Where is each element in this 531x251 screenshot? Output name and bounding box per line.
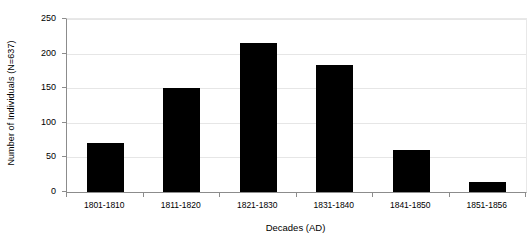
y-tick-label: 50 bbox=[46, 152, 56, 161]
bar-series bbox=[67, 19, 526, 192]
bar-slot bbox=[373, 19, 450, 192]
bar bbox=[240, 43, 277, 192]
bar bbox=[393, 150, 430, 192]
bar-slot bbox=[67, 19, 144, 192]
x-axis-title: Decades (AD) bbox=[66, 222, 525, 233]
y-tick-label: 250 bbox=[41, 14, 56, 23]
x-tick-label: 1811-1820 bbox=[143, 199, 220, 215]
x-tick-label: 1841-1850 bbox=[372, 199, 449, 215]
bar bbox=[163, 88, 200, 192]
x-axis-tick-labels: 1801-1810 1811-1820 1821-1830 1831-1840 … bbox=[66, 199, 525, 215]
x-tick-mark bbox=[525, 192, 526, 197]
bar-slot bbox=[144, 19, 221, 192]
bar-slot bbox=[450, 19, 527, 192]
y-tick-label: 0 bbox=[51, 187, 56, 196]
x-tick-mark bbox=[449, 192, 450, 197]
x-tick-label: 1801-1810 bbox=[66, 199, 143, 215]
y-tick-label: 200 bbox=[41, 48, 56, 57]
y-tick-label: 100 bbox=[41, 117, 56, 126]
y-tick-label: 150 bbox=[41, 83, 56, 92]
y-axis-tick-labels: 250 200 150 100 50 0 bbox=[22, 0, 62, 205]
x-tick-mark bbox=[372, 192, 373, 197]
bar bbox=[469, 182, 506, 192]
x-tick-mark bbox=[143, 192, 144, 197]
x-tick-label: 1821-1830 bbox=[219, 199, 296, 215]
x-tick-label: 1831-1840 bbox=[296, 199, 373, 215]
y-axis-title: Number of Individuals (N=637) bbox=[0, 0, 22, 205]
bar bbox=[87, 143, 124, 192]
plot-area bbox=[66, 18, 527, 193]
bar-chart: Number of Individuals (N=637) 250 200 15… bbox=[0, 0, 531, 251]
x-tick-mark bbox=[296, 192, 297, 197]
bar-slot bbox=[297, 19, 374, 192]
x-tick-mark bbox=[219, 192, 220, 197]
x-tick-label: 1851-1856 bbox=[449, 199, 526, 215]
y-axis-title-text: Number of Individuals (N=637) bbox=[6, 40, 16, 165]
bar-slot bbox=[220, 19, 297, 192]
bar bbox=[316, 65, 353, 192]
x-axis-tick-marks bbox=[66, 192, 527, 197]
x-tick-mark bbox=[66, 192, 67, 197]
